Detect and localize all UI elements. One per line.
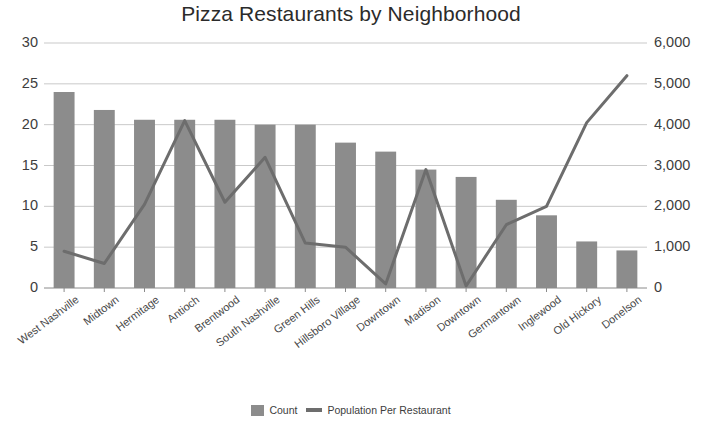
legend-label-population-per-restaurant: Population Per Restaurant <box>327 404 450 416</box>
bar <box>54 92 75 288</box>
bar <box>335 143 356 288</box>
bar <box>576 241 597 288</box>
bar <box>496 200 517 288</box>
bar <box>295 125 316 288</box>
bar <box>214 120 235 288</box>
chart-legend: Count Population Per Restaurant <box>0 404 702 416</box>
bar <box>174 120 195 288</box>
legend-label-count: Count <box>269 404 297 416</box>
bar <box>616 250 637 288</box>
plot-area <box>0 0 702 429</box>
bar-series-count <box>54 92 638 288</box>
chart-container: Pizza Restaurants by Neighborhood 051015… <box>0 0 702 429</box>
bar <box>255 125 276 288</box>
legend-item-count: Count <box>251 404 297 416</box>
legend-item-population-per-restaurant: Population Per Restaurant <box>306 404 450 416</box>
bar <box>536 215 557 288</box>
legend-bar-swatch-icon <box>251 405 264 416</box>
bar <box>456 177 477 288</box>
axis-lines <box>44 288 647 292</box>
legend-line-swatch-icon <box>306 408 322 412</box>
